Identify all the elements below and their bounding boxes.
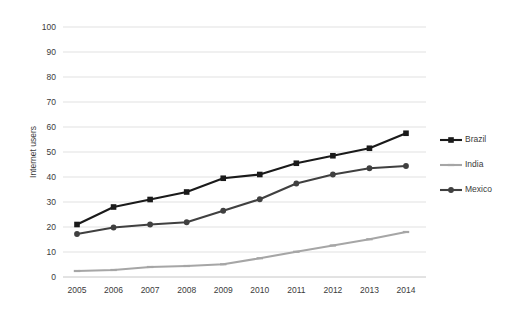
y-tick-label: 30 (47, 197, 57, 207)
data-point-marker (403, 231, 409, 233)
y-tick-label: 90 (47, 47, 57, 57)
data-point-marker (330, 153, 336, 159)
data-point-marker (74, 231, 80, 237)
data-point-marker (330, 244, 336, 246)
data-point-marker (220, 208, 226, 214)
legend-item-label[interactable]: India (465, 159, 484, 169)
data-point-marker (448, 187, 454, 193)
data-point-marker (110, 269, 116, 271)
y-tick-label: 0 (51, 272, 56, 282)
data-point-marker (293, 181, 299, 187)
data-point-marker (147, 222, 153, 228)
line-chart: 0102030405060708090100 20052006200720082… (0, 0, 527, 319)
data-point-marker (403, 163, 409, 169)
data-point-marker (293, 251, 299, 253)
y-tick-label: 80 (47, 72, 57, 82)
y-tick-label: 60 (47, 122, 57, 132)
data-point-marker (184, 189, 190, 195)
x-tick-label: 2012 (323, 285, 342, 295)
x-tick-label: 2005 (68, 285, 87, 295)
series-india (74, 231, 409, 272)
x-tick-label: 2011 (287, 285, 306, 295)
data-point-marker (147, 197, 153, 203)
y-tick-label: 50 (47, 147, 57, 157)
y-tick-label: 100 (42, 22, 56, 32)
y-tick-label: 40 (47, 172, 57, 182)
data-point-marker (257, 196, 263, 202)
data-point-marker (366, 238, 372, 240)
data-point-marker (257, 257, 263, 259)
data-point-marker (147, 266, 153, 268)
series-line (77, 133, 406, 224)
x-tick-label: 2014 (397, 285, 416, 295)
data-point-marker (448, 164, 454, 166)
data-point-marker (403, 130, 409, 136)
data-point-marker (111, 225, 117, 231)
chart-legend: BrazilIndiaMexico (440, 134, 492, 194)
data-point-marker (184, 219, 190, 225)
data-point-marker (294, 160, 300, 166)
legend-item-label[interactable]: Mexico (465, 184, 492, 194)
series-mexico (74, 163, 409, 237)
data-point-marker (220, 263, 226, 265)
legend-item-label[interactable]: Brazil (465, 134, 486, 144)
y-tick-label: 70 (47, 97, 57, 107)
data-point-marker (367, 145, 373, 151)
data-point-marker (448, 137, 454, 143)
data-point-marker (330, 172, 336, 178)
x-tick-label: 2006 (104, 285, 123, 295)
x-tick-label: 2009 (214, 285, 233, 295)
data-point-marker (111, 204, 117, 210)
x-tick-label: 2008 (177, 285, 196, 295)
chart-canvas: 0102030405060708090100 20052006200720082… (0, 0, 527, 319)
y-tick-label: 10 (47, 247, 57, 257)
series-line (77, 232, 406, 271)
x-tick-label: 2007 (141, 285, 160, 295)
x-tick-label: 2010 (250, 285, 269, 295)
data-point-marker (74, 222, 80, 228)
x-tick-label: 2013 (360, 285, 379, 295)
data-point-marker (183, 265, 189, 267)
data-point-marker (74, 270, 80, 272)
data-point-marker (367, 165, 373, 171)
data-point-marker (257, 172, 263, 178)
x-axis-tick-labels: 2005200620072008200920102011201220132014 (68, 285, 416, 295)
series-brazil (74, 130, 409, 227)
y-axis-title: Internet users (28, 126, 38, 178)
data-point-marker (220, 175, 226, 181)
y-tick-label: 20 (47, 222, 57, 232)
y-axis-tick-labels: 0102030405060708090100 (42, 22, 56, 282)
